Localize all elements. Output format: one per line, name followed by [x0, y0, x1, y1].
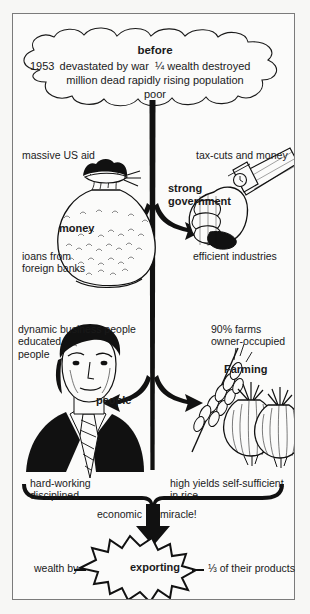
- outcome-arrow-label-left: economic: [97, 508, 142, 520]
- branch-people-bottom-label: hard-working disciplined: [30, 477, 91, 502]
- branch-government-top-label: tax-cuts and money: [196, 149, 288, 161]
- branch-farming-bottom-label: high yields self-sufficient in rice: [170, 477, 284, 502]
- branch-farming-icon-label: Farming: [224, 363, 267, 376]
- cloud-line-1: devastated by war ¼ wealth destroyed: [0, 60, 310, 73]
- outcome-suffix-label: ⅓ of their products: [208, 562, 295, 574]
- diagram-frame: [12, 13, 295, 600]
- cloud-line-2: million dead rapidly rising population: [0, 74, 310, 87]
- branch-money-bottom-label: ioans from foreign banks: [22, 250, 85, 275]
- cloud-heading: before: [0, 44, 310, 58]
- branch-government-bottom-label: efficient industries: [193, 250, 277, 262]
- branch-people-icon-label: people: [96, 394, 131, 407]
- diagram-page: before 1953 devastated by war ¼ wealth d…: [0, 0, 310, 614]
- branch-people-top-label: dynamic business people educated people: [18, 323, 136, 360]
- branch-government-icon-label: strong government: [168, 182, 231, 208]
- outcome-arrow-label-right: miracle!: [160, 508, 197, 520]
- branch-money-icon-label: money: [59, 222, 94, 235]
- branch-farming-top-label: 90% farms owner-occupied: [211, 323, 285, 348]
- branch-money-top-label: massive US aid: [22, 149, 95, 161]
- cloud-line-3: poor: [0, 88, 310, 101]
